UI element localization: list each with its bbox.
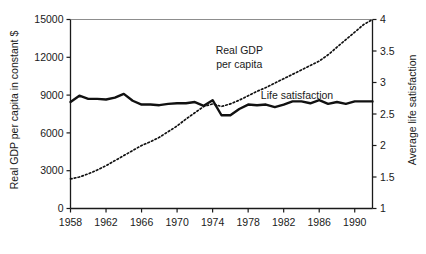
annotation-life-satisfaction: Life satisfaction: [261, 89, 334, 101]
annotations-group: Real GDPper capitaLife satisfaction: [216, 44, 334, 101]
y-axis-right-tick-label: 2.5: [380, 108, 395, 120]
x-axis-tick-label: 1990: [343, 216, 367, 228]
y-axis-right-tick-label: 3: [380, 76, 386, 88]
y-axis-left-tick-label: 0: [58, 202, 64, 214]
annotation-gdp-line2: per capita: [216, 58, 262, 70]
y-axis-right-tick-label: 3.5: [380, 45, 395, 57]
chart-figure: Real GDP per capita in constant $ Averag…: [0, 0, 426, 254]
x-axis-tick-label: 1966: [130, 216, 154, 228]
x-axis-tick-label: 1962: [94, 216, 118, 228]
y-axis-left-tick-label: 15000: [34, 13, 63, 25]
y-axis-left-tick-label: 9000: [40, 89, 64, 101]
y-axis-left-tick-label: 12000: [34, 51, 63, 63]
y-axis-right-tick-label: 2: [380, 139, 386, 151]
x-axis-tick-label: 1974: [201, 216, 225, 228]
x-axis-tick-label: 1970: [165, 216, 189, 228]
y-axis-right-tick-label: 1: [380, 202, 386, 214]
x-axis-tick-label: 1978: [236, 216, 260, 228]
annotation-gdp-line1: Real GDP: [216, 44, 263, 56]
y-axis-right-tick-label: 1.5: [380, 171, 395, 183]
x-axis-tick-label: 1986: [308, 216, 332, 228]
plot-area: 0300060009000120001500011.522.533.541958…: [0, 0, 426, 254]
y-axis-left-tick-label: 3000: [40, 164, 64, 176]
x-axis-tick-label: 1982: [272, 216, 296, 228]
ticks-group: 0300060009000120001500011.522.533.541958…: [34, 13, 394, 227]
y-axis-right-tick-label: 4: [380, 13, 386, 25]
y-axis-left-tick-label: 6000: [40, 127, 64, 139]
x-axis-tick-label: 1958: [59, 216, 83, 228]
